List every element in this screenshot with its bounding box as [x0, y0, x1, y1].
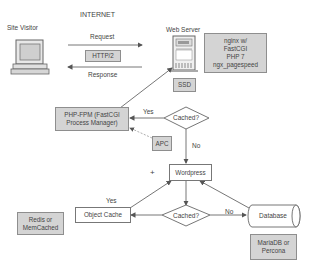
request-label: Request: [90, 33, 114, 40]
redis-line: Redis or: [29, 216, 52, 224]
plus-label: +: [150, 168, 155, 177]
objcache-to-wp-arrow: [130, 181, 171, 208]
response-label: Response: [88, 71, 117, 78]
object-cache-text: Object Cache: [84, 211, 122, 219]
mariadb-line: MariaDB or: [258, 239, 290, 247]
wordpress-text: Wordpress: [175, 169, 205, 177]
php-fpm-box: PHP-FPM (FastCGI Process Manager): [55, 107, 129, 131]
ssd-box: SSD: [173, 78, 196, 92]
computer-icon: [11, 40, 49, 74]
mariadb-box: MariaDB or Percona: [250, 234, 297, 260]
internet-label: INTERNET: [80, 11, 115, 18]
site-visitor-label: Site Visitor: [7, 24, 38, 31]
apc-box: APC: [152, 136, 172, 151]
http2-box: HTTP/2: [85, 50, 121, 62]
db-to-wp-arrow: [200, 181, 249, 208]
database-text: Database: [253, 212, 293, 219]
server-stack-line: PHP 7: [226, 53, 244, 61]
apc-text: APC: [156, 140, 169, 148]
server-stack-box: nginx w/ FastCGI PHP 7 ngx_pagespeed: [204, 33, 267, 73]
yes-bottom-label: Yes: [106, 197, 117, 204]
php-fpm-line: Process Manager): [66, 119, 117, 127]
http2-text: HTTP/2: [92, 52, 114, 60]
apc-dashed-line: [130, 128, 152, 138]
cached-bottom-text: Cached?: [172, 212, 200, 219]
server-stack-line: nginx w/: [224, 37, 247, 45]
server-stack-line: ngx_pagespeed: [213, 61, 258, 69]
redis-line: MemCached: [23, 224, 59, 232]
web-server-label: Web Server: [166, 26, 200, 33]
mariadb-line: Percona: [262, 247, 285, 255]
object-cache-box: Object Cache: [75, 207, 131, 223]
no-top-label: No: [192, 142, 200, 149]
php-fpm-line: PHP-FPM (FastCGI: [64, 111, 120, 119]
redis-box: Redis or MemCached: [17, 212, 64, 235]
yes-top-label: Yes: [143, 108, 154, 115]
ssd-text: SSD: [178, 81, 191, 89]
server-stack-line: FastCGI: [224, 45, 247, 53]
cached-top-text: Cached?: [172, 114, 200, 121]
wordpress-box: Wordpress: [169, 164, 212, 181]
php-to-server-line: [120, 68, 172, 108]
no-bottom-label: No: [225, 208, 233, 215]
server-icon: [170, 36, 198, 72]
